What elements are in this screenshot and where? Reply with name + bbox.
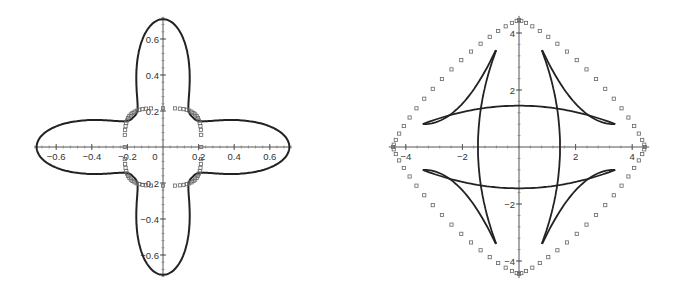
square-marker bbox=[173, 184, 176, 187]
y-tick-label: 4 bbox=[510, 28, 515, 39]
square-marker bbox=[633, 166, 636, 169]
square-marker bbox=[612, 97, 615, 100]
square-marker bbox=[497, 261, 500, 264]
square-marker bbox=[565, 241, 568, 244]
x-tick-label: 0.6 bbox=[263, 151, 276, 162]
square-marker bbox=[556, 42, 559, 45]
square-marker bbox=[402, 124, 405, 127]
square-marker bbox=[488, 256, 491, 259]
square-marker bbox=[637, 132, 640, 135]
square-marker bbox=[531, 266, 534, 269]
square-marker bbox=[394, 152, 397, 155]
square-marker bbox=[415, 184, 418, 187]
square-marker bbox=[524, 21, 527, 24]
x-tick-label: −0.6 bbox=[47, 151, 66, 162]
square-marker bbox=[450, 223, 453, 226]
square-marker bbox=[123, 128, 126, 131]
square-marker bbox=[408, 116, 411, 119]
square-marker bbox=[394, 138, 397, 141]
square-marker bbox=[594, 213, 597, 216]
square-marker bbox=[199, 162, 202, 165]
square-marker bbox=[627, 116, 630, 119]
square-marker bbox=[585, 68, 588, 71]
square-marker bbox=[604, 87, 607, 90]
square-marker bbox=[199, 128, 202, 131]
y-tick-label: 0.4 bbox=[146, 70, 159, 81]
square-marker bbox=[627, 175, 630, 178]
square-marker bbox=[408, 175, 411, 178]
square-marker bbox=[620, 184, 623, 187]
square-marker bbox=[460, 59, 463, 62]
square-marker bbox=[612, 194, 615, 197]
y-tick-label: −2 bbox=[504, 199, 515, 210]
y-tick-label: 0.6 bbox=[146, 34, 159, 45]
square-marker bbox=[637, 159, 640, 162]
x-tick-label: 0.4 bbox=[228, 151, 241, 162]
x-tick-label: −4 bbox=[400, 151, 411, 162]
square-marker bbox=[178, 184, 181, 187]
square-marker bbox=[123, 133, 126, 136]
square-marker bbox=[556, 249, 559, 252]
square-marker bbox=[538, 261, 541, 264]
square-marker bbox=[469, 241, 472, 244]
square-marker bbox=[123, 162, 126, 165]
square-marker bbox=[479, 249, 482, 252]
square-marker bbox=[585, 223, 588, 226]
left-plot: −0.6−0.4−0.20.20.40.60.60.40.2−0.2−0.4−0… bbox=[35, 17, 291, 276]
square-marker bbox=[440, 77, 443, 80]
square-marker bbox=[547, 35, 550, 38]
x-tick-label: −2 bbox=[457, 151, 468, 162]
square-marker bbox=[641, 152, 644, 155]
square-marker bbox=[178, 107, 181, 110]
square-marker bbox=[531, 25, 534, 28]
square-marker bbox=[423, 194, 426, 197]
square-marker bbox=[538, 29, 541, 32]
x-tick-label: 0.2 bbox=[192, 151, 205, 162]
square-marker bbox=[450, 68, 453, 71]
square-marker bbox=[497, 29, 500, 32]
square-marker bbox=[604, 204, 607, 207]
y-tick-label: −0.4 bbox=[140, 214, 159, 225]
square-marker bbox=[423, 97, 426, 100]
x-tick-label: 4 bbox=[630, 151, 635, 162]
square-marker bbox=[510, 269, 513, 272]
square-marker bbox=[575, 232, 578, 235]
square-marker bbox=[431, 87, 434, 90]
square-marker bbox=[524, 269, 527, 272]
square-marker bbox=[402, 166, 405, 169]
square-marker bbox=[200, 133, 203, 136]
x-tick-label: 2 bbox=[573, 151, 578, 162]
square-marker bbox=[504, 266, 507, 269]
square-marker bbox=[460, 232, 463, 235]
square-marker bbox=[469, 50, 472, 53]
square-marker bbox=[431, 204, 434, 207]
square-marker bbox=[415, 107, 418, 110]
right-plot: −4−22442−2−4 bbox=[389, 16, 649, 278]
square-marker bbox=[479, 42, 482, 45]
square-marker bbox=[510, 21, 513, 24]
square-marker bbox=[620, 107, 623, 110]
square-marker bbox=[488, 35, 491, 38]
x-tick-label: −0.2 bbox=[118, 151, 137, 162]
origin-label: 0 bbox=[152, 151, 157, 162]
square-marker bbox=[641, 138, 644, 141]
square-marker bbox=[398, 132, 401, 135]
square-marker bbox=[173, 107, 176, 110]
y-tick-label: −4 bbox=[504, 256, 515, 267]
square-marker bbox=[440, 213, 443, 216]
figure: −0.6−0.4−0.20.20.40.60.60.40.2−0.2−0.4−0… bbox=[0, 0, 686, 295]
x-tick-label: −0.4 bbox=[82, 151, 101, 162]
square-marker bbox=[633, 124, 636, 127]
square-marker bbox=[575, 59, 578, 62]
y-tick-label: 2 bbox=[510, 85, 515, 96]
square-marker bbox=[547, 256, 550, 259]
square-marker bbox=[594, 77, 597, 80]
square-marker bbox=[504, 25, 507, 28]
square-marker bbox=[565, 50, 568, 53]
